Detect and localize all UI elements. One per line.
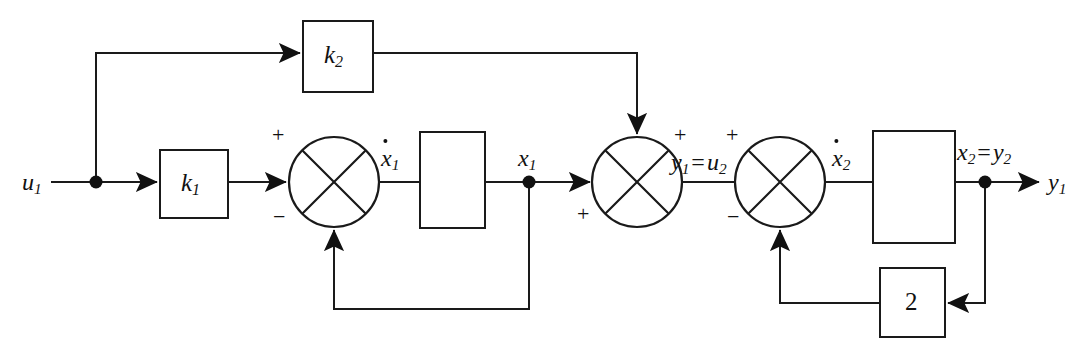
- label-output-y1: y1: [1048, 170, 1066, 197]
- label-gain-2: 2: [905, 289, 918, 314]
- label-state1-dot: x1: [381, 146, 399, 173]
- label-state1: x1: [518, 146, 536, 173]
- summer-3[interactable]: [735, 137, 825, 227]
- block-integrator-2[interactable]: [873, 131, 955, 243]
- summer-1[interactable]: [289, 137, 379, 227]
- label-interstage-y1-u2: y1=u2: [671, 150, 727, 177]
- junction-dot-x2: [979, 176, 992, 189]
- sign-summer2-plus-top: +: [674, 124, 686, 146]
- sign-summer1-minus: −: [273, 206, 285, 228]
- label-gain-k2: k2: [324, 42, 343, 70]
- sign-summer1-plus: +: [272, 124, 284, 146]
- label-state2-equals-output2: x2=y2: [957, 140, 1011, 167]
- summer-2[interactable]: [592, 137, 682, 227]
- junction-dot-x1: [523, 176, 536, 189]
- diagram-canvas: [0, 0, 1090, 356]
- wire-k2-to-summer2-top: [373, 53, 637, 133]
- junction-dot-u1: [90, 176, 103, 189]
- block-integrator-1[interactable]: [420, 132, 485, 228]
- block-diagram: u1 k1 k2 x1 x1 y1=u2 x2 x2=y2 y1 2 + − +…: [0, 0, 1090, 356]
- label-gain-k1: k1: [181, 170, 200, 198]
- wire-gain2-to-summer3: [780, 231, 880, 303]
- label-input-u1: u1: [22, 170, 42, 197]
- label-state2-dot: x2: [832, 146, 850, 173]
- sign-summer3-minus: −: [727, 206, 739, 228]
- sign-summer3-plus: +: [726, 124, 738, 146]
- sign-summer2-plus-left: +: [577, 203, 589, 225]
